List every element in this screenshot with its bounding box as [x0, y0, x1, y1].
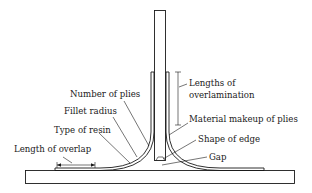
left-overlamination-inner	[55, 72, 154, 171]
label-type-of-resin: Type of resin	[54, 125, 111, 135]
label-lengths-of-overlamination-2: overlamination	[189, 90, 255, 100]
label-gap: Gap	[209, 152, 227, 162]
base-plate	[26, 171, 295, 184]
leader-length-of-overlap	[63, 157, 72, 163]
t-joint-diagram: Lengths of overlamination Number of plie…	[0, 0, 312, 193]
overlamination-dimension-bar	[175, 72, 181, 125]
vertical-web	[155, 11, 166, 161]
overlap-dimension-arrow	[57, 162, 95, 168]
label-fillet-radius: Fillet radius	[64, 106, 117, 116]
label-lengths-of-overlamination-1: Lengths of	[189, 78, 236, 88]
leader-lengths-of-overlamination	[179, 84, 187, 87]
leader-shape-of-edge	[163, 140, 196, 159]
label-material-makeup-of-plies: Material makeup of plies	[189, 114, 298, 124]
label-length-of-overlap: Length of overlap	[14, 144, 92, 154]
leader-number-of-plies	[124, 101, 149, 146]
label-shape-of-edge: Shape of edge	[198, 134, 260, 144]
leader-fillet-radius	[113, 117, 137, 157]
label-number-of-plies: Number of plies	[70, 89, 140, 99]
